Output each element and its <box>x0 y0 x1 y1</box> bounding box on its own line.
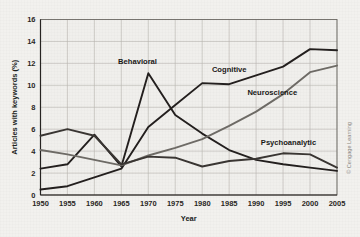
x-tick-label: 1950 <box>32 199 49 208</box>
series-label-psychoanalytic: Psychoanalytic <box>261 138 316 147</box>
chart-plot-area: 0246810121416 19501955196019651970197519… <box>0 0 360 237</box>
figure-container: 0246810121416 19501955196019651970197519… <box>0 0 360 237</box>
series-label-neuroscience: Neuroscience <box>247 88 297 97</box>
x-tick-label: 2000 <box>302 199 319 208</box>
x-tick-label: 1990 <box>248 199 265 208</box>
y-tick-label: 2 <box>31 169 35 178</box>
y-axis-ticks: 0246810121416 <box>27 15 36 200</box>
x-tick-label: 1975 <box>167 199 184 208</box>
y-tick-label: 6 <box>31 125 35 134</box>
x-tick-label: 1980 <box>194 199 211 208</box>
x-tick-label: 1960 <box>86 199 103 208</box>
x-tick-label: 1985 <box>221 199 238 208</box>
y-tick-label: 8 <box>31 103 35 112</box>
y-tick-label: 16 <box>27 15 35 24</box>
y-tick-label: 4 <box>31 147 36 156</box>
y-tick-label: 12 <box>27 59 35 68</box>
x-tick-label: 1965 <box>113 199 130 208</box>
copyright-credit: © Cengage Learning <box>346 122 352 174</box>
x-tick-label: 1955 <box>59 199 76 208</box>
x-tick-label: 1995 <box>275 199 292 208</box>
x-tick-label: 2005 <box>329 199 346 208</box>
y-tick-label: 14 <box>27 37 36 46</box>
gridlines-group <box>41 20 338 196</box>
y-axis-title: Articles with keywords (%) <box>10 59 19 155</box>
series-label-cognitive: Cognitive <box>212 65 247 74</box>
y-tick-label: 10 <box>27 81 35 90</box>
x-tick-label: 1970 <box>140 199 157 208</box>
series-label-behavioral: Behavioral <box>118 57 157 66</box>
line-chart-svg: 0246810121416 19501955196019651970197519… <box>0 0 360 237</box>
x-axis-title: Year <box>181 214 197 223</box>
